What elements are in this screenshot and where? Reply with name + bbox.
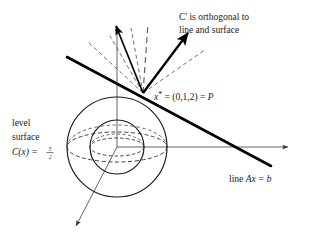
point-label-name: P [207,92,214,102]
figure-background [0,0,316,240]
line-equation-label: line Ax = b [229,174,272,184]
line-equation-prefix: line [229,174,246,184]
vector-geometry-figure: C' is orthogonal to line and surface x* … [0,0,316,240]
level-surface-label-line1: level [12,118,31,128]
fraction-denominator: 2 [49,154,52,160]
level-surface-function-expr: C(x) = [12,147,38,158]
orthogonality-annotation-line1: C' is orthogonal to [179,12,249,22]
level-surface-label-line2: surface [12,132,39,142]
line-equation-expression: Ax = b [245,174,272,184]
level-surface-label-line3: C(x) = [12,147,38,158]
point-label-x-star: x* = (0,1,2) = P [153,90,214,103]
point-label-equals: = (0,1,2) = [162,92,208,103]
fraction-numerator: 5 [49,146,52,152]
orthogonality-annotation-line2: line and surface [179,25,239,35]
